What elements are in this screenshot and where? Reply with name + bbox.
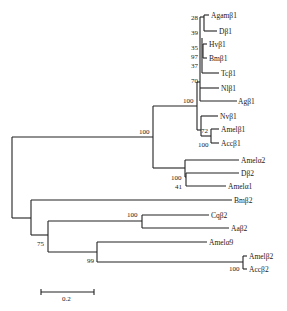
taxon-label: Agβ1: [238, 97, 255, 106]
taxon-label: Hvβ1: [209, 40, 226, 49]
taxon-label: Bmβ1: [209, 54, 228, 63]
taxon-label: Amelβ2: [249, 252, 273, 261]
taxon-label: Dβ2: [241, 169, 254, 178]
bootstrap-values: 28 39 35 97 37 70 100 72 100 100 100 41 …: [37, 14, 240, 273]
bootstrap-value: 28: [191, 14, 199, 22]
bootstrap-value: 99: [87, 257, 95, 265]
taxon-label: Agamβ1: [211, 11, 237, 20]
bootstrap-value: 37: [191, 62, 199, 70]
bootstrap-value: 100: [127, 211, 138, 219]
bootstrap-value: 72: [201, 127, 209, 135]
bootstrap-value: 39: [191, 29, 199, 37]
taxon-label: Aaβ2: [231, 224, 248, 233]
phylogenetic-tree: Agamβ1 Dβ1 Hvβ1 Bmβ1 Tcβ1 Nlβ1 Agβ1 Nvβ1…: [0, 0, 287, 311]
taxon-label: Cqβ2: [211, 211, 228, 220]
bootstrap-value: 100: [139, 128, 150, 136]
bootstrap-value: 100: [171, 174, 182, 182]
bootstrap-value: 97: [191, 53, 199, 61]
taxon-label: Amelα9: [209, 238, 234, 247]
bootstrap-value: 75: [37, 240, 45, 248]
taxon-label: Tcβ1: [221, 69, 236, 78]
taxon-label: Accβ2: [249, 265, 269, 274]
taxon-label: Nvβ1: [220, 112, 237, 121]
scale-bar-label: 0.2: [62, 295, 71, 303]
bootstrap-value: 41: [175, 183, 183, 191]
taxon-label: Nlβ1: [221, 84, 236, 93]
taxon-label: Amelβ1: [221, 125, 245, 134]
bootstrap-value: 100: [183, 97, 194, 105]
taxon-label: Amelα2: [241, 156, 266, 165]
taxon-label: Accβ1: [221, 139, 241, 148]
bootstrap-value: 35: [191, 44, 199, 52]
taxon-label: Bmβ2: [234, 196, 253, 205]
bootstrap-value: 100: [229, 265, 240, 273]
bootstrap-value: 100: [198, 141, 209, 149]
taxon-label: Amelα1: [228, 182, 253, 191]
scale-bar: 0.2: [41, 289, 94, 303]
bootstrap-value: 70: [191, 77, 199, 85]
taxon-label: Dβ1: [219, 27, 232, 36]
